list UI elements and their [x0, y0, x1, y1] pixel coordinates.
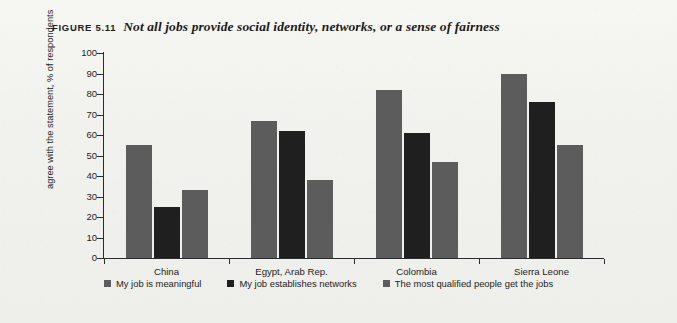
y-axis-tick-label: 70 — [64, 109, 97, 120]
y-axis-tick — [97, 217, 103, 218]
bar-chart: agree with the statement, % of responden… — [0, 44, 677, 276]
figure-page: FIGURE 5.11Not all jobs provide social i… — [0, 0, 677, 323]
bar — [557, 145, 583, 258]
plot-area — [104, 53, 604, 258]
y-axis-tick — [97, 115, 103, 116]
bar — [529, 102, 555, 258]
page-title: Not all jobs provide social identity, ne… — [123, 19, 500, 34]
x-axis-tick — [604, 259, 605, 264]
bar — [154, 207, 180, 258]
bar — [182, 190, 208, 258]
y-axis-tick — [97, 156, 103, 157]
y-axis-tick — [97, 53, 103, 54]
x-axis-category-label: Colombia — [354, 266, 479, 277]
y-axis-tick-label: 100 — [64, 47, 97, 58]
chart-legend: My job is meaningfulMy job establishes n… — [104, 278, 553, 289]
y-axis-tick-label: 20 — [64, 211, 97, 222]
y-axis-tick-label: 50 — [64, 150, 97, 161]
legend-label: The most qualified people get the jobs — [395, 278, 553, 289]
y-axis-tick-label: 10 — [64, 232, 97, 243]
legend-label: My job is meaningful — [116, 278, 201, 289]
legend-item[interactable]: The most qualified people get the jobs — [383, 278, 553, 289]
y-axis-tick-label: 80 — [64, 88, 97, 99]
figure-number: FIGURE 5.11 — [52, 22, 116, 33]
legend-item[interactable]: My job establishes networks — [227, 278, 356, 289]
x-axis-tick — [229, 259, 230, 264]
bar — [376, 90, 402, 258]
bar — [126, 145, 152, 258]
x-axis-tick — [354, 259, 355, 264]
bar — [279, 131, 305, 258]
y-axis-tick — [97, 94, 103, 95]
y-axis-tick-label: 0 — [64, 252, 97, 263]
y-axis-tick — [97, 238, 103, 239]
y-axis-tick-label: 60 — [64, 129, 97, 140]
y-axis-title: agree with the statement, % of responden… — [45, 29, 55, 189]
bar — [251, 121, 277, 258]
y-axis-tick-label: 30 — [64, 191, 97, 202]
legend-swatch-icon — [227, 280, 234, 287]
x-axis-category-label: China — [104, 266, 229, 277]
legend-label: My job establishes networks — [239, 278, 356, 289]
bar — [501, 74, 527, 259]
y-axis-tick — [97, 258, 103, 259]
legend-swatch-icon — [383, 280, 390, 287]
legend-swatch-icon — [104, 280, 111, 287]
legend-item[interactable]: My job is meaningful — [104, 278, 201, 289]
x-axis-tick — [479, 259, 480, 264]
y-axis-tick-label: 40 — [64, 170, 97, 181]
x-axis-tick — [104, 259, 105, 264]
bar — [307, 180, 333, 258]
y-axis-tick — [97, 74, 103, 75]
y-axis-tick — [97, 135, 103, 136]
figure-caption: FIGURE 5.11Not all jobs provide social i… — [52, 17, 500, 35]
bar — [404, 133, 430, 258]
x-axis-category-label: Egypt, Arab Rep. — [229, 266, 354, 277]
x-axis-category-label: Sierra Leone — [479, 266, 604, 277]
bar — [432, 162, 458, 258]
y-axis-tick — [97, 197, 103, 198]
y-axis-tick — [97, 176, 103, 177]
y-axis-tick-label: 90 — [64, 68, 97, 79]
